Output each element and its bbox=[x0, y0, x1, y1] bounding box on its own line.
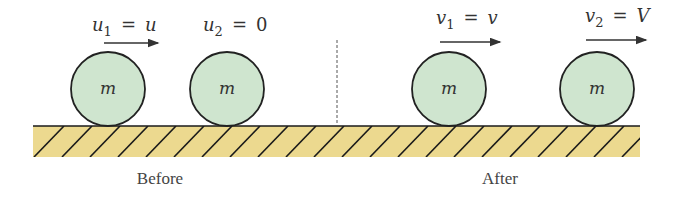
mass-label: m bbox=[441, 78, 457, 98]
mass-label: m bbox=[219, 78, 235, 98]
after-caption: After bbox=[482, 169, 518, 188]
svg-text:u1=u: u1=u bbox=[92, 14, 157, 39]
svg-text:v2=V: v2=V bbox=[585, 5, 652, 30]
ground bbox=[33, 126, 652, 157]
after-ball-1-velocity-label: v1=v bbox=[436, 7, 500, 42]
svg-text:v1=v: v1=v bbox=[436, 7, 498, 32]
mass-label: m bbox=[100, 78, 116, 98]
before-ball-2: m bbox=[190, 52, 264, 126]
before-ball-2-velocity-label: u2=0 bbox=[203, 14, 267, 39]
before-ball-1: m bbox=[71, 52, 145, 126]
after-ball-2-velocity-label: v2=V bbox=[585, 5, 652, 40]
after-ball-1: m bbox=[412, 52, 486, 126]
after-ball-2: m bbox=[560, 52, 634, 126]
collision-diagram: m u1=u m u2=0 m v1=v m v2=V Bef bbox=[0, 0, 690, 198]
before-caption: Before bbox=[137, 169, 183, 188]
svg-text:u2=0: u2=0 bbox=[203, 14, 267, 39]
before-ball-1-velocity-label: u1=u bbox=[92, 14, 158, 43]
mass-label: m bbox=[589, 78, 605, 98]
